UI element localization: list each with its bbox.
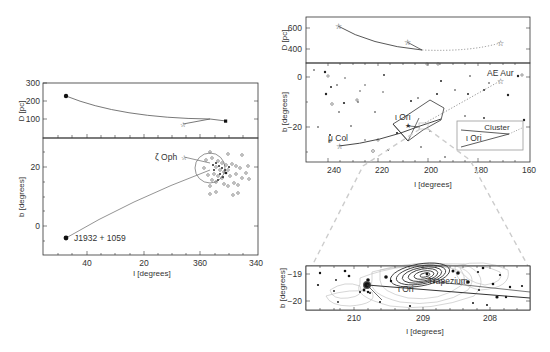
right-latitude-panel: 0 −20 b [degrees] 240 220 200 180 160 l … [280, 63, 536, 266]
star-icon: ☆ [336, 142, 343, 151]
star-icon: ★ [405, 122, 411, 129]
star-icon: ☆ [497, 77, 504, 86]
orion-zoom-panel: Trapezium ι Ori −19 −20 b [degrees] 210 … [278, 259, 530, 336]
cluster-label: Cluster [484, 123, 510, 132]
x-axis-label: l [degrees] [406, 327, 443, 336]
star-icon: ☆ [404, 38, 411, 47]
right-distance-panel: 600 400 D [pc] ☆ ☆ ☆ [280, 17, 530, 63]
selection-circle [195, 153, 225, 183]
trapezium-label: Trapezium [428, 276, 468, 286]
ae-aur-label: AE Aur [487, 68, 514, 78]
xtick-220: 220 [375, 165, 389, 175]
ytick-20: 20 [31, 162, 41, 172]
ytick-300: 300 [26, 78, 40, 88]
iota-ori-zoom-label: ι Ori [398, 284, 414, 294]
x-axis-label: l [degrees] [133, 269, 170, 278]
pulsar-marker [64, 94, 68, 98]
xtick-340: 340 [249, 258, 263, 268]
y-axis-label-distance: D [pc] [17, 101, 26, 122]
zeta-oph-distance-track [183, 119, 210, 124]
xtick-200: 200 [424, 165, 438, 175]
cluster-inset: Cluster ι Ori [457, 121, 523, 150]
ae-aur-distance-track [422, 43, 500, 50]
y-axis-label-latitude: b [degrees] [17, 177, 26, 217]
star-icon: ☆ [180, 121, 186, 128]
pulsar-trajectory [66, 170, 210, 238]
xtick-40: 40 [82, 258, 92, 268]
ytick-600: 600 [288, 23, 302, 33]
xtick-208: 208 [483, 313, 497, 323]
star-icon: ☆ [181, 154, 187, 161]
inset-iota-ori-label: ι Ori [466, 133, 482, 143]
xtick-209: 209 [416, 313, 430, 323]
ae-aur-track [425, 81, 500, 123]
y-axis-label-latitude: b [degrees] [278, 268, 287, 308]
xtick-20: 20 [139, 258, 149, 268]
x-axis-label: l [degrees] [414, 180, 451, 189]
xtick-360: 360 [193, 258, 207, 268]
figure: 300 200 100 D [pc] ☆ [0, 0, 550, 352]
mu-col-label: μ Col [328, 133, 348, 143]
left-latitude-panel: 20 0 b [degrees] 40 20 360 340 l [degree… [17, 138, 263, 278]
star-icon: ☆ [497, 39, 504, 48]
ytick-400: 400 [288, 44, 302, 54]
ytick-minus-20: −20 [288, 296, 303, 306]
zeta-oph-trajectory [184, 157, 210, 163]
ytick-minus-19: −19 [288, 269, 303, 279]
pulsar-marker [64, 236, 69, 241]
ytick-200: 200 [26, 96, 40, 106]
xtick-210: 210 [347, 313, 361, 323]
pulsar-label: J1932 + 1059 [74, 233, 126, 243]
pulsar-distance-track [66, 96, 226, 121]
y-axis-label-latitude: b [degrees] [280, 92, 289, 132]
xtick-240: 240 [327, 165, 341, 175]
xtick-160: 160 [522, 165, 536, 175]
y-axis-label-distance: D [pc] [280, 30, 289, 51]
ytick-0: 0 [35, 221, 40, 231]
left-distance-panel: 300 200 100 D [pc] ☆ [17, 78, 258, 138]
end-point-marker [224, 120, 227, 123]
ytick-0: 0 [297, 72, 302, 82]
star-icon: ☆ [335, 22, 342, 31]
ytick-100: 100 [26, 114, 40, 124]
zoom-connector-left [312, 129, 420, 266]
ytick-minus-20: −20 [288, 122, 303, 132]
zeta-oph-label: ζ Oph [155, 152, 177, 162]
iota-ori-label: ι Ori [395, 112, 411, 122]
